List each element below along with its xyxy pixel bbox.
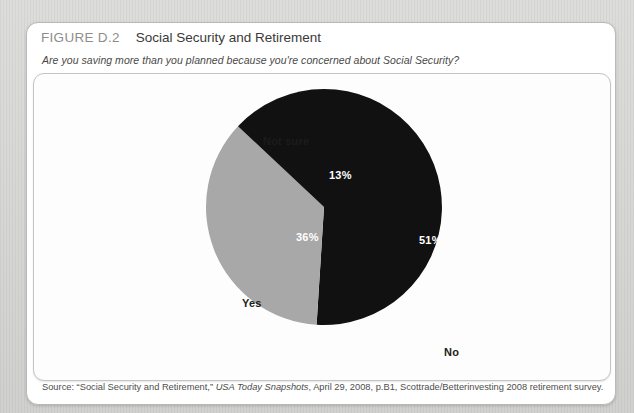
slice-value-no: 51% xyxy=(419,234,442,246)
chart-panel: 51% 36% 13% Not sure Yes No xyxy=(33,73,611,381)
figure-question: Are you saving more than you planned bec… xyxy=(42,54,459,66)
slice-value-not-sure: 13% xyxy=(329,169,352,181)
figure-card: FIGURE D.2 Social Security and Retiremen… xyxy=(26,22,616,405)
source-prefix: Source: “Social Security and Retirement,… xyxy=(42,382,216,392)
figure-title-row: FIGURE D.2 Social Security and Retiremen… xyxy=(41,30,321,45)
figure-number: FIGURE D.2 xyxy=(41,30,120,45)
category-label-no: No xyxy=(444,346,459,358)
source-note: Source: “Social Security and Retirement,… xyxy=(42,382,603,392)
figure-header: FIGURE D.2 Social Security and Retiremen… xyxy=(27,23,615,73)
pie-svg xyxy=(204,87,444,327)
figure-title: Social Security and Retirement xyxy=(136,30,321,45)
category-label-yes: Yes xyxy=(242,297,262,309)
category-label-not-sure: Not sure xyxy=(263,135,309,147)
source-suffix: , April 29, 2008, p.B1, Scottrade/Better… xyxy=(308,382,603,392)
source-strip: Source: “Social Security and Retirement,… xyxy=(27,380,615,404)
pie-chart: 51% 36% 13% Not sure Yes No xyxy=(34,74,610,380)
pie-slice-no xyxy=(317,89,442,325)
pie-graphic xyxy=(204,87,444,327)
source-publication: USA Today Snapshots xyxy=(216,382,309,392)
slice-value-yes: 36% xyxy=(296,231,319,243)
